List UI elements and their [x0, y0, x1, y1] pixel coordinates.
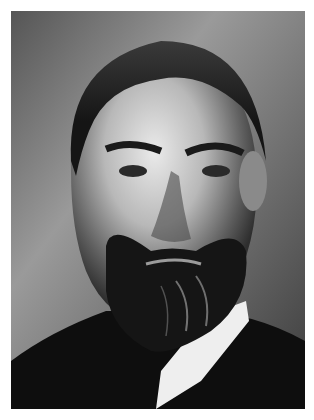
right-eye: [202, 165, 230, 177]
portrait-photo: [11, 11, 305, 409]
ear: [239, 151, 267, 211]
portrait-illustration: [11, 11, 305, 409]
left-eye: [119, 165, 147, 177]
